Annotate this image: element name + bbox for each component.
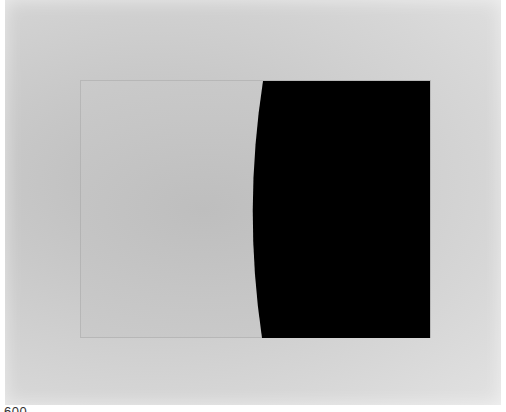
- artwork-image: 600: [0, 0, 506, 412]
- cropped-caption-text: 600: [4, 404, 27, 412]
- black-curved-shape: [0, 0, 506, 412]
